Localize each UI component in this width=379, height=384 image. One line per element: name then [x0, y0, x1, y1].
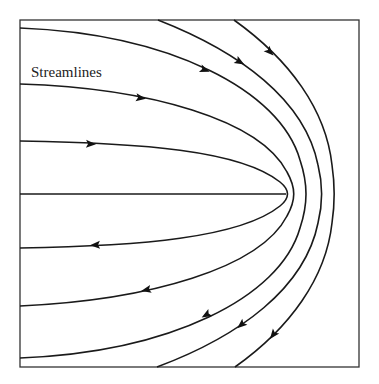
- streamline-diagram: Streamlines: [0, 0, 379, 384]
- streamlines-label: Streamlines: [31, 64, 102, 80]
- flow-arrow-icon: [235, 319, 248, 332]
- flow-arrow-icon: [200, 309, 213, 321]
- flow-arrow-icon: [264, 46, 277, 59]
- streamline: [20, 84, 294, 306]
- flow-arrow-icon: [234, 56, 247, 68]
- flow-arrow-icon: [86, 140, 96, 148]
